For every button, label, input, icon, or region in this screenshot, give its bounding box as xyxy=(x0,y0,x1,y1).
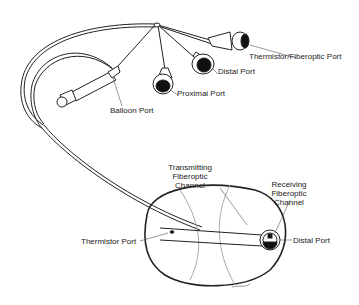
label-proximal-port: Proximai Port xyxy=(177,89,225,98)
label-transmitting-fiberoptic-channel: Transmitting Fiberoptic Channel xyxy=(158,163,222,190)
label-thermistor-fiberoptic-port: Thermistor/Fiberoptic Port xyxy=(249,52,341,61)
catheter-outer-loop xyxy=(21,24,200,230)
label-distal-port-top: Distal Port xyxy=(218,67,255,76)
balloon-port-syringe xyxy=(57,66,120,107)
label-distal-port-tip: Distal Port xyxy=(293,236,330,245)
label-receiving-fiberoptic-channel: Receiving Fiberoptic Channel xyxy=(264,180,314,207)
thermistor-fiberoptic-port-connector xyxy=(208,32,249,50)
catheter-diagram xyxy=(0,0,359,305)
label-balloon-port: Balloon Port xyxy=(110,106,154,115)
distal-port-connector xyxy=(192,52,214,74)
label-thermistor-port: Thermistor Port xyxy=(81,237,136,246)
